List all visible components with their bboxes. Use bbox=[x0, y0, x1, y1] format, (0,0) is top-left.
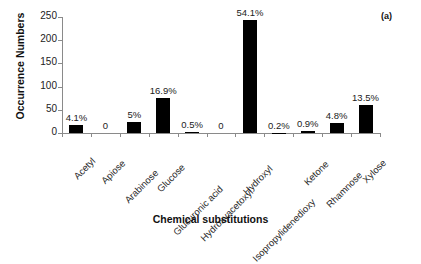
bar-value-label: 4.1% bbox=[66, 112, 88, 123]
bar-item: 13.5% bbox=[359, 17, 373, 133]
bar-item: 0.2% bbox=[272, 17, 286, 133]
bar-item: 4.8% bbox=[330, 17, 344, 133]
bar-item: 5% bbox=[127, 17, 141, 133]
bar-item: 0 bbox=[98, 17, 112, 133]
x-tick-mark bbox=[380, 133, 381, 137]
bar-item: 4.1% bbox=[69, 17, 83, 133]
y-tick-label: 200 bbox=[40, 33, 57, 44]
bar-item: 0 bbox=[214, 17, 228, 133]
plot-area: 050100150200250 4.1%05%16.9%0.5%054.1%0.… bbox=[62, 17, 380, 133]
x-tick-label: Rhamnose bbox=[324, 169, 364, 209]
bar-value-label: 5% bbox=[127, 109, 141, 120]
x-axis-line bbox=[62, 133, 380, 134]
y-axis-title: Occurrence Numbers bbox=[14, 1, 26, 131]
bar bbox=[243, 20, 257, 133]
bar-value-label: 54.1% bbox=[236, 7, 263, 18]
y-tick-label: 0 bbox=[51, 126, 57, 137]
panel-label: (a) bbox=[381, 11, 392, 21]
bar bbox=[156, 98, 170, 133]
bar-value-label: 13.5% bbox=[352, 92, 379, 103]
y-tick-label: 150 bbox=[40, 56, 57, 67]
x-tick-label: Ketone bbox=[301, 158, 330, 187]
x-axis-title: Chemical substitutions bbox=[0, 213, 421, 225]
y-tick-label: 100 bbox=[40, 80, 57, 91]
bar-value-label: 0 bbox=[218, 120, 223, 131]
y-tick-label: 250 bbox=[40, 10, 57, 21]
y-tick-mark bbox=[58, 40, 62, 41]
x-tick-label: Isopropylidenedioxy bbox=[250, 196, 317, 263]
bar-value-label: 4.8% bbox=[326, 110, 348, 121]
bar bbox=[185, 132, 199, 133]
bar-item: 0.9% bbox=[301, 17, 315, 133]
y-tick-mark bbox=[58, 63, 62, 64]
y-axis-line bbox=[62, 17, 63, 133]
bar bbox=[127, 122, 141, 133]
x-tick-label: Acetyl bbox=[72, 155, 98, 181]
y-tick-mark bbox=[58, 110, 62, 111]
bar bbox=[330, 123, 344, 133]
x-tick-label: Apiose bbox=[99, 158, 127, 186]
x-tick-label: Glucose bbox=[155, 162, 187, 194]
y-tick-label: 50 bbox=[46, 103, 57, 114]
y-tick-mark bbox=[58, 87, 62, 88]
bar-item: 54.1% bbox=[243, 17, 257, 133]
x-tick-label: Xylose bbox=[360, 157, 388, 185]
x-tick-label: Hydroxyl bbox=[241, 163, 275, 197]
bar-value-label: 0.5% bbox=[181, 119, 203, 130]
bar-value-label: 0.9% bbox=[297, 118, 319, 129]
bar-value-label: 0 bbox=[103, 120, 108, 131]
bar bbox=[69, 125, 83, 133]
x-tick-label-group: AcetylApioseArabinoseGlucoseGlucuronic a… bbox=[62, 137, 380, 207]
bar bbox=[301, 131, 315, 133]
bar-item: 0.5% bbox=[185, 17, 199, 133]
bar bbox=[359, 105, 373, 133]
y-tick-mark bbox=[58, 17, 62, 18]
bar-value-label: 0.2% bbox=[268, 120, 290, 131]
bar-item: 16.9% bbox=[156, 17, 170, 133]
bar-value-label: 16.9% bbox=[150, 85, 177, 96]
